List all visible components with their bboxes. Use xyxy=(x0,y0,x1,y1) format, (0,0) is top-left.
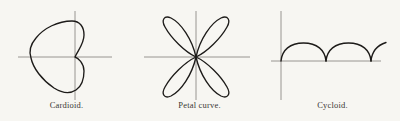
cycloid-arch-3-partial xyxy=(371,43,386,62)
petal-upper-right xyxy=(196,17,229,57)
petal-lower-right xyxy=(196,57,229,97)
petal-lower-left xyxy=(163,57,196,97)
petal-curve-caption: Petal curve. xyxy=(133,100,266,110)
petal-curve-canvas xyxy=(133,0,266,104)
cycloid-arch-1 xyxy=(281,43,326,61)
cycloid-arch-2 xyxy=(326,43,371,61)
figure-petal-curve: Petal curve. xyxy=(133,0,266,121)
petal-upper-left xyxy=(163,17,196,57)
cardioid-caption: Cardioid. xyxy=(0,100,133,110)
cycloid-canvas xyxy=(266,0,399,104)
figure-cardioid: Cardioid. xyxy=(0,0,133,121)
cardioid-canvas xyxy=(0,0,133,104)
cycloid-caption: Cycloid. xyxy=(266,100,399,110)
figure-cycloid: Cycloid. xyxy=(266,0,399,121)
curve-figure-row: Cardioid. Petal curve. xyxy=(0,0,400,121)
